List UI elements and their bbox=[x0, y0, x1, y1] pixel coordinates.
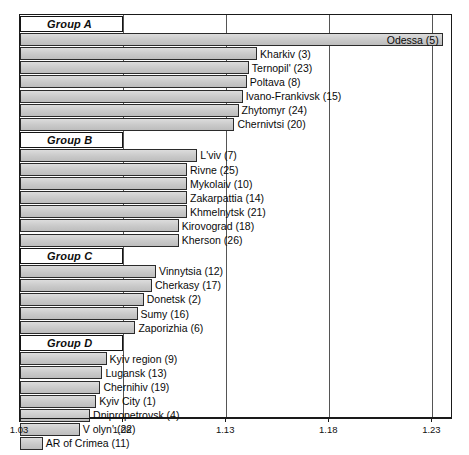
bar-row: Chernihiv (19) bbox=[20, 381, 453, 394]
bar-value-label: Cherkasy (17) bbox=[152, 280, 221, 291]
bar-row: L'viv (7) bbox=[20, 149, 453, 162]
group-label: Group A bbox=[21, 18, 92, 30]
tick-label-1.18: 1.18 bbox=[319, 424, 338, 435]
group-header-group-c: Group C bbox=[20, 248, 123, 264]
bar-row: Mykolaiv (10) bbox=[20, 177, 453, 190]
bar-row: Kharkiv (3) bbox=[20, 47, 453, 60]
bar-kyiv-city bbox=[20, 395, 96, 408]
bar-value-label: Donetsk (2) bbox=[144, 294, 201, 305]
bar-value-label: AR of Crimea (11) bbox=[43, 438, 130, 449]
bar-value-label: Kharkiv (3) bbox=[257, 48, 311, 59]
tick-mark-1.13 bbox=[225, 418, 226, 422]
bar-rows-layer: Group AOdessa (5)Kharkiv (3)Ternopil' (2… bbox=[20, 15, 451, 417]
bar-vinnytsia bbox=[20, 265, 156, 278]
bar-row: V olyn' (22) bbox=[20, 423, 453, 436]
bar-value-label: Poltava (8) bbox=[247, 77, 301, 88]
bar-zaporizhia bbox=[20, 321, 135, 334]
tick-label-1.13: 1.13 bbox=[216, 424, 235, 435]
bar-kirovograd bbox=[20, 219, 179, 232]
plot-area: Group AOdessa (5)Kharkiv (3)Ternopil' (2… bbox=[19, 14, 452, 418]
group-header-group-a: Group A bbox=[20, 16, 123, 32]
bar-row: Ternopil' (23) bbox=[20, 61, 453, 74]
bar-value-label: Kherson (26) bbox=[179, 235, 243, 246]
bar-poltava bbox=[20, 75, 247, 88]
bar-row: Vinnytsia (12) bbox=[20, 265, 453, 278]
x-axis-line bbox=[19, 418, 452, 419]
tick-label-1.08: 1.08 bbox=[113, 424, 132, 435]
bar-ivano-frankivsk bbox=[20, 90, 243, 103]
bar-value-label: Chernivtsi (20) bbox=[234, 119, 305, 130]
bar-kharkiv bbox=[20, 47, 257, 60]
bar-cherkasy bbox=[20, 279, 152, 292]
bar-chernihiv bbox=[20, 381, 100, 394]
bar-dnipropetrovsk bbox=[20, 409, 90, 422]
bar-row: Kyiv region (9) bbox=[20, 352, 453, 365]
tick-mark-1.18 bbox=[328, 418, 329, 422]
bar-value-label: Odessa (5) bbox=[387, 34, 443, 45]
bar-row: Poltava (8) bbox=[20, 75, 453, 88]
bar-row: Kyiv City (1) bbox=[20, 395, 453, 408]
bar-khmelnytsk bbox=[20, 205, 187, 218]
tick-mark-1.03 bbox=[19, 418, 20, 422]
bar-row: Kherson (26) bbox=[20, 234, 453, 247]
tick-mark-1.23 bbox=[431, 418, 432, 422]
bar-ar-of-crimea bbox=[20, 437, 43, 450]
bar-value-label: Lugansk (13) bbox=[102, 368, 166, 379]
bar-zhytomyr bbox=[20, 104, 239, 117]
bar-row: Sumy (16) bbox=[20, 307, 453, 320]
tick-label-1.03: 1.03 bbox=[10, 424, 29, 435]
tick-label-1.23: 1.23 bbox=[422, 424, 441, 435]
bar-value-label: L'viv (7) bbox=[197, 150, 236, 161]
bar-mykolaiv bbox=[20, 177, 187, 190]
bar-value-label: Zaporizhia (6) bbox=[135, 322, 203, 333]
bar-l-viv bbox=[20, 149, 197, 162]
bar-row: Dnipropetrovsk (4) bbox=[20, 409, 453, 422]
bar-row: Zhytomyr (24) bbox=[20, 104, 453, 117]
group-label: Group B bbox=[21, 134, 92, 146]
bar-value-label: Zakarpattia (14) bbox=[187, 192, 264, 203]
bar-value-label: Kirovograd (18) bbox=[179, 221, 254, 232]
group-header-group-d: Group D bbox=[20, 335, 123, 351]
bar-rivne bbox=[20, 163, 187, 176]
bar-kyiv-region bbox=[20, 352, 107, 365]
bar-value-label: Zhytomyr (24) bbox=[239, 105, 307, 116]
bar-row: Chernivtsi (20) bbox=[20, 118, 453, 131]
bar-odessa bbox=[20, 33, 443, 46]
bar-lugansk bbox=[20, 366, 102, 379]
bar-value-label: Chernihiv (19) bbox=[100, 382, 169, 393]
bar-row: Zaporizhia (6) bbox=[20, 321, 453, 334]
bar-kherson bbox=[20, 234, 179, 247]
bar-row: Kirovograd (18) bbox=[20, 219, 453, 232]
bar-value-label: Ivano-Frankivsk (15) bbox=[243, 91, 342, 102]
bar-row: AR of Crimea (11) bbox=[20, 437, 453, 450]
bar-value-label: Kyiv region (9) bbox=[107, 354, 178, 365]
bar-volyn bbox=[20, 423, 80, 436]
bar-value-label: Vinnytsia (12) bbox=[156, 266, 223, 277]
bar-donetsk bbox=[20, 293, 144, 306]
bar-chernivtsi bbox=[20, 118, 234, 131]
bar-row: Lugansk (13) bbox=[20, 366, 453, 379]
bar-ternopil bbox=[20, 61, 249, 74]
group-label: Group D bbox=[21, 337, 92, 349]
bar-value-label: Kyiv City (1) bbox=[96, 396, 156, 407]
bar-row: Ivano-Frankivsk (15) bbox=[20, 90, 453, 103]
bar-row: Rivne (25) bbox=[20, 163, 453, 176]
bar-value-label: Sumy (16) bbox=[138, 308, 189, 319]
group-header-group-b: Group B bbox=[20, 132, 123, 148]
grouped-horizontal-bar-chart: Group AOdessa (5)Kharkiv (3)Ternopil' (2… bbox=[0, 0, 469, 455]
bar-value-label: Khmelnytsk (21) bbox=[187, 207, 266, 218]
bar-sumy bbox=[20, 307, 138, 320]
bar-row: Khmelnytsk (21) bbox=[20, 205, 453, 218]
tick-mark-1.08 bbox=[122, 418, 123, 422]
bar-value-label: Ternopil' (23) bbox=[249, 63, 312, 74]
bar-row: Zakarpattia (14) bbox=[20, 191, 453, 204]
bar-zakarpattia bbox=[20, 191, 187, 204]
group-label: Group C bbox=[21, 250, 92, 262]
bar-value-label: Mykolaiv (10) bbox=[187, 178, 252, 189]
bar-row: Cherkasy (17) bbox=[20, 279, 453, 292]
bar-value-label: Rivne (25) bbox=[187, 164, 238, 175]
bar-row: Odessa (5) bbox=[20, 33, 453, 46]
bar-row: Donetsk (2) bbox=[20, 293, 453, 306]
